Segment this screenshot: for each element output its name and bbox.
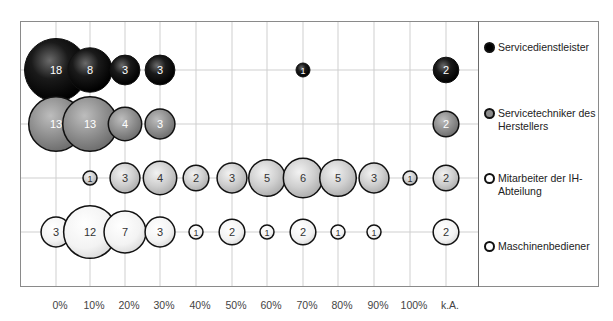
bubble-value-label: 3	[157, 64, 163, 76]
bubble: 2	[433, 111, 459, 137]
bubble: 3	[110, 55, 140, 85]
bubble-value-label: 5	[264, 172, 270, 184]
x-tick-label: 70%	[296, 299, 317, 311]
bubble: 3	[359, 163, 389, 193]
legend-marker-icon	[484, 173, 495, 184]
bubble-value-label: 4	[157, 172, 163, 184]
bubble: 2	[433, 57, 459, 83]
bubble-value-label: 1	[407, 174, 412, 184]
bubble-value-label: 3	[229, 172, 235, 184]
bubble: 2	[183, 165, 209, 191]
legend-item-mitarbeiter-ih: Mitarbeiter der IH-Abteilung	[484, 172, 610, 198]
bubble-value-label: 7	[122, 226, 128, 238]
bubble-value-label: 2	[443, 172, 449, 184]
bubble: 1	[331, 225, 345, 239]
bubble-value-label: 1	[193, 228, 198, 238]
bubble-value-label: 3	[122, 172, 128, 184]
x-tick-label: 60%	[260, 299, 281, 311]
bubble: 2	[219, 219, 245, 245]
bubble: 4	[108, 107, 141, 140]
bubble-value-label: 1	[335, 228, 340, 238]
bubble-value-label: 3	[122, 64, 128, 76]
bubble-value-label: 5	[335, 172, 341, 184]
x-tick-label: 30%	[153, 299, 174, 311]
bubble: 3	[145, 217, 175, 247]
bubble-value-label: 1	[87, 174, 92, 184]
bubble-value-label: 2	[229, 226, 235, 238]
bubble-value-label: 1	[300, 66, 305, 76]
x-tick-label: 20%	[118, 299, 139, 311]
legend-label: Maschinenbediener	[498, 240, 610, 253]
legend-marker-icon	[484, 42, 495, 53]
bubble: 3	[217, 163, 247, 193]
x-tick-label: 50%	[225, 299, 246, 311]
bubble: 2	[433, 219, 459, 245]
bubble-value-label: 3	[157, 118, 163, 130]
bubble: 2	[290, 219, 316, 245]
legend-marker-icon	[484, 241, 495, 252]
x-tick-label: 40%	[189, 299, 210, 311]
x-tick-label: 0%	[52, 299, 67, 311]
legend-label: Servicedienstleister	[498, 41, 610, 54]
bubble: 1	[83, 171, 97, 185]
bubble: 8	[68, 48, 112, 92]
bubble-value-label: 2	[193, 172, 199, 184]
bubble-value-label: 6	[300, 172, 306, 184]
legend-item-servicedienstleister: Servicedienstleister	[484, 41, 610, 54]
bubble: 6	[283, 158, 322, 197]
bubble: 5	[320, 160, 357, 197]
bubble: 1	[260, 225, 274, 239]
bubble-value-label: 4	[122, 118, 128, 130]
x-tick-label: 100%	[401, 299, 428, 311]
bubble-value-label: 2	[300, 226, 306, 238]
legend-item-maschinenbediener: Maschinenbediener	[484, 240, 610, 253]
bubble-value-label: 18	[50, 64, 62, 76]
legend-label: Servicetechniker des Herstellers	[498, 107, 610, 133]
x-tick-label: 10%	[83, 299, 104, 311]
bubble-value-label: 2	[443, 64, 449, 76]
bubble: 7	[104, 211, 146, 253]
bubble-value-label: 13	[84, 118, 96, 130]
bubble-value-label: 3	[157, 226, 163, 238]
bubble: 3	[110, 163, 140, 193]
bubble-value-label: 1	[371, 228, 376, 238]
bubble-value-label: 2	[443, 226, 449, 238]
bubble-value-label: 2	[443, 118, 449, 130]
bubble-value-label: 3	[53, 226, 59, 238]
bubble-value-label: 8	[87, 64, 93, 76]
legend-item-servicetechniker: Servicetechniker des Herstellers	[484, 107, 610, 133]
x-tick-label: 80%	[331, 299, 352, 311]
bubble: 1	[296, 63, 310, 77]
bubble: 1	[403, 171, 417, 185]
x-tick-label: k.A.	[441, 299, 459, 311]
bubble-value-label: 1	[264, 228, 269, 238]
bubble-value-label: 12	[84, 226, 96, 238]
bubble: 1	[189, 225, 203, 239]
bubble: 1	[367, 225, 381, 239]
legend-marker-icon	[484, 108, 495, 119]
bubble-value-label: 3	[371, 172, 377, 184]
bubble: 5	[249, 160, 286, 197]
bubble-value-label: 13	[50, 118, 62, 130]
bubble: 2	[433, 165, 459, 191]
x-tick-label: 90%	[367, 299, 388, 311]
bubble: 4	[143, 161, 176, 194]
bubbles: 1883312131343213423565312312731212112	[24, 38, 458, 258]
bubble: 3	[145, 55, 175, 85]
bubble: 3	[145, 109, 175, 139]
legend-label: Mitarbeiter der IH-Abteilung	[498, 172, 610, 198]
